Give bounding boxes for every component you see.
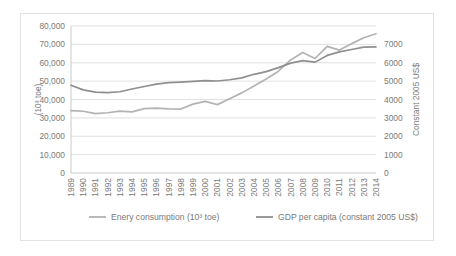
y2-axis-title: Constant 2005 US$	[411, 63, 421, 136]
y-axis-tick-label: 60,000	[39, 58, 65, 68]
x-axis-tick-label: 2004	[249, 178, 259, 197]
series-line-1	[71, 34, 376, 114]
x-axis-tick-label: 1993	[115, 178, 125, 197]
y-axis-tick-label: 50,000	[39, 76, 65, 86]
x-axis-tick-label: 1995	[139, 178, 149, 197]
x-axis-tick-label: 2005	[261, 178, 271, 197]
x-axis-tick-label: 1989	[66, 178, 76, 197]
chart-container: 0010,000100020,000200030,000300040,00040…	[20, 13, 434, 241]
y2-axis-tick-label: 3000	[384, 113, 403, 123]
legend-label-1: Enery consumption (10³ toe)	[111, 212, 220, 222]
x-axis-tick-label: 1994	[127, 178, 137, 197]
x-axis-tick-label: 2000	[200, 178, 210, 197]
y2-axis-tick-label: 6000	[384, 58, 403, 68]
x-axis-tick-label: 1998	[176, 178, 186, 197]
y-axis-tick-label: 80,000	[39, 21, 65, 31]
line-chart: 0010,000100020,000200030,000300040,00040…	[21, 14, 435, 242]
y-axis-tick-label: 40,000	[39, 95, 65, 105]
y-axis-tick-label: 70,000	[39, 39, 65, 49]
x-axis-tick-label: 2009	[310, 178, 320, 197]
y-axis-tick-label: 30,000	[39, 113, 65, 123]
x-axis-tick-label: 2014	[371, 178, 381, 197]
legend-label-2: GDP per capita (constant 2005 US$)	[278, 212, 418, 222]
x-axis-tick-label: 1992	[103, 178, 113, 197]
x-axis-tick-label: 2006	[273, 178, 283, 197]
x-axis-labels: 1989199019911992199319941995199619971998…	[66, 178, 381, 197]
x-axis-tick-label: 2007	[286, 178, 296, 197]
x-axis-tick-label: 1990	[78, 178, 88, 197]
y2-axis-tick-label: 5000	[384, 76, 403, 86]
x-axis-tick-label: 2001	[212, 178, 222, 197]
y-axis-title: (10³ toe)	[33, 83, 43, 115]
x-axis-tick-label: 2003	[237, 178, 247, 197]
series-line-2	[71, 47, 376, 93]
x-axis-tick-label: 2011	[334, 178, 344, 196]
y2-axis-tick-label: 0	[384, 168, 389, 178]
y-axis-tick-label: 20,000	[39, 131, 65, 141]
x-axis-tick-label: 2012	[347, 178, 357, 197]
x-axis-tick-label: 2013	[359, 178, 369, 197]
x-axis-tick-label: 1996	[151, 178, 161, 197]
x-axis-tick-label: 1999	[188, 178, 198, 197]
y2-axis-tick-label: 1000	[384, 150, 403, 160]
y-axis-tick-label: 0	[60, 168, 65, 178]
y2-axis-tick-label: 2000	[384, 131, 403, 141]
x-axis-tick-label: 2002	[225, 178, 235, 197]
x-axis-tick-label: 1991	[90, 178, 100, 197]
chart-plot-host: 0010,000100020,000200030,000300040,00040…	[21, 14, 435, 242]
x-axis-tick-label: 1997	[164, 178, 174, 197]
legend: Enery consumption (10³ toe)GDP per capit…	[89, 212, 418, 222]
y-axis-tick-label: 10,000	[39, 150, 65, 160]
y2-axis-tick-label: 7000	[384, 39, 403, 49]
x-axis-tick-label: 2010	[322, 178, 332, 197]
x-axis-tick-label: 2008	[298, 178, 308, 197]
y2-axis-tick-label: 4000	[384, 95, 403, 105]
